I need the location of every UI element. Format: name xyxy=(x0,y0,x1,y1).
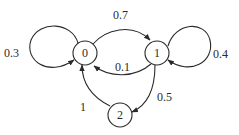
edge-0-to-1: 0.7 xyxy=(93,8,150,44)
edge-label-0-to-0: 0.3 xyxy=(4,46,19,60)
edge-label-1-to-2: 0.5 xyxy=(157,90,172,104)
state-label-0: 0 xyxy=(82,46,88,60)
edge-arrow-0-to-1 xyxy=(93,30,150,44)
edges: 0.3 0.7 0.4 0.1 0.5 1 xyxy=(4,8,228,114)
edge-1-to-1: 0.4 xyxy=(168,26,228,67)
edge-0-to-0: 0.3 xyxy=(4,26,78,67)
markov-chain-diagram: 0.3 0.7 0.4 0.1 0.5 1 0 1 xyxy=(0,0,239,135)
edge-arrow-2-to-0 xyxy=(82,65,110,106)
edge-label-1-to-0: 0.1 xyxy=(115,60,130,74)
state-label-2: 2 xyxy=(117,108,123,122)
edge-label-2-to-0: 1 xyxy=(80,100,86,114)
self-loop-1-arrow xyxy=(168,26,211,67)
state-node-1: 1 xyxy=(145,41,169,65)
state-label-1: 1 xyxy=(154,46,160,60)
edge-label-0-to-1: 0.7 xyxy=(113,8,128,22)
nodes: 0 1 2 xyxy=(73,41,169,127)
state-node-2: 2 xyxy=(108,103,132,127)
self-loop-0-arrow xyxy=(30,26,78,67)
edge-1-to-0: 0.1 xyxy=(94,60,151,75)
state-node-0: 0 xyxy=(73,41,97,65)
edge-arrow-1-to-2 xyxy=(132,65,155,112)
edge-label-1-to-1: 0.4 xyxy=(213,47,228,61)
